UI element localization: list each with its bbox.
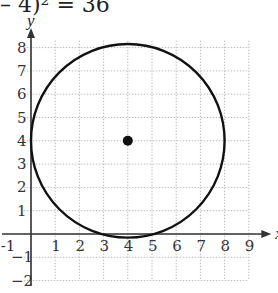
- x-axis-label: x: [274, 224, 278, 243]
- graph: xy-112345678987654321−1−2: [0, 0, 278, 293]
- x-tick-label: 8: [221, 237, 231, 255]
- x-tick-label: 4: [124, 237, 134, 255]
- y-tick-label: 1: [17, 202, 27, 220]
- center-point: [123, 136, 133, 146]
- x-tick-label: 6: [172, 237, 182, 255]
- y-tick-label: 2: [17, 178, 27, 196]
- y-tick-label: 5: [17, 109, 27, 127]
- x-tick-label: 3: [100, 237, 110, 255]
- y-tick-label: −1: [11, 248, 33, 266]
- y-tick-label: 7: [17, 62, 27, 80]
- x-tick-label: 9: [245, 237, 255, 255]
- y-tick-label: 4: [17, 132, 27, 150]
- x-tick-label: 1: [51, 237, 61, 255]
- y-tick-label: −2: [11, 272, 33, 290]
- y-tick-label: 8: [17, 39, 27, 57]
- y-tick-label: 3: [17, 155, 27, 173]
- x-tick-label: 2: [75, 237, 85, 255]
- y-tick-label: 6: [17, 85, 27, 103]
- x-tick-label: 7: [196, 237, 206, 255]
- y-axis-label: y: [25, 11, 35, 30]
- x-tick-label: 5: [148, 237, 158, 255]
- x-axis-arrow-icon: [261, 230, 271, 238]
